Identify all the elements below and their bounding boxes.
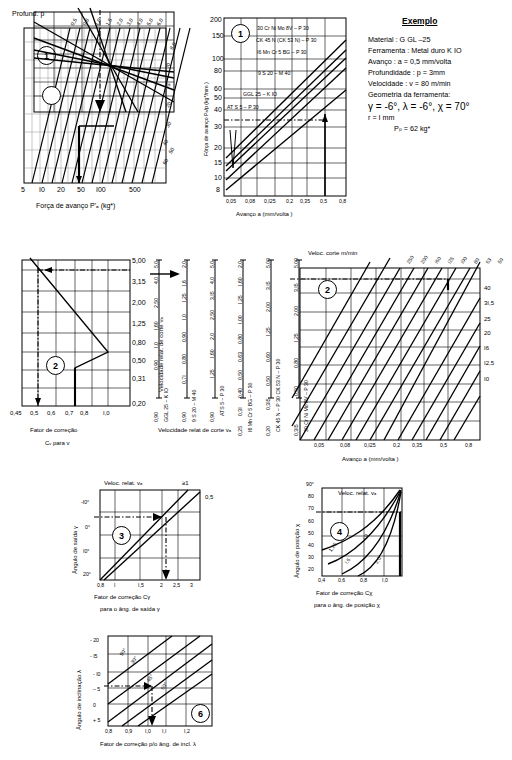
scale-material: GGL 25 – K IO	[164, 388, 169, 422]
scale-tick: 0,90	[154, 360, 159, 370]
chart-4-ylabel: Ângulo de posição χ	[294, 524, 300, 578]
scale-marker-arrow	[150, 268, 190, 282]
x-tick: 0,8	[360, 578, 367, 583]
right-label: 40	[484, 285, 491, 291]
scale-tick: 5,00	[266, 258, 271, 268]
example-result: Pₚ = 62 kg*	[394, 123, 469, 134]
x-tick: 2,5	[173, 583, 180, 588]
y-tick: 20	[214, 144, 222, 151]
chart-4-xlabel2: para o âng. de posição χ	[314, 602, 380, 608]
y-tick: 20	[308, 567, 314, 572]
y-tick: - 20	[90, 638, 99, 643]
chart-3-curve-label: 0,5	[205, 494, 213, 500]
y-tick: 50	[214, 94, 222, 101]
chart-3-ylabel: Ângulo de saída γ	[72, 526, 78, 574]
chart-5: Ângulo de inclinação λ - 20 - I5 - I0 – …	[76, 630, 266, 756]
y-tick: 40	[308, 543, 314, 548]
scale-tick: 0,25	[238, 426, 243, 436]
chart-2-scales-xlabel: Velocidade relat de corte vₐ	[158, 427, 231, 433]
x-tick: 0,35	[300, 199, 310, 204]
x-tick: 0,2	[286, 199, 293, 204]
x-tick: I0	[39, 186, 45, 193]
y-tick: 8	[216, 186, 220, 193]
scale-tick: I,0	[154, 342, 159, 348]
x-tick: 0,8	[465, 443, 472, 448]
x-tick: 0,I25	[264, 199, 276, 204]
x-tick: I,I	[162, 729, 166, 734]
chart-3-badge: 3	[112, 526, 131, 545]
y-tick: - I0	[93, 672, 101, 677]
x-tick: 50	[77, 186, 85, 193]
scale-tick: I,25	[238, 295, 243, 304]
right-label: 3I,5	[484, 300, 494, 306]
x-tick: 0,08	[340, 443, 350, 448]
scale-tick: I,60	[210, 349, 215, 358]
scale-tick: 0,90	[182, 332, 187, 342]
scale-material: I6 Mn Cr 5 BG – P 30	[248, 383, 253, 433]
chart-3-title: Veloc. relat. vₐ	[104, 480, 142, 486]
scale-tick: 2,50	[154, 298, 159, 308]
x-tick: 0,5	[30, 410, 38, 416]
scale-tick: I,60	[154, 321, 159, 330]
chart-1-right-badge: 1	[231, 24, 250, 43]
y-tick: 90°	[306, 482, 314, 487]
chart-2-left-badge: 2	[46, 356, 65, 375]
scale-tick: 5,0	[154, 261, 159, 268]
scale-tick: 2,0	[238, 261, 243, 268]
x-tick: 500	[129, 186, 141, 193]
right-label: 25	[484, 316, 491, 322]
x-tick: 0,5	[320, 199, 327, 204]
right-label: I0	[484, 376, 489, 382]
chart-1-left-xlabel: Força de avanço P'ₐ (kg*)	[36, 202, 115, 209]
scale-tick: 2,00	[266, 302, 271, 312]
scale-tick: 0,90	[182, 412, 187, 422]
y-tick: 60	[308, 519, 314, 524]
example-line: Velocidade : v = 80 m/min	[368, 78, 469, 89]
chart-2-left-xlabel2: Cᵥ para v	[45, 440, 70, 446]
y-tick: 15	[214, 159, 222, 166]
y-tick: 20°	[83, 572, 91, 577]
chart-3-xlabel: Fator de correção Cγ	[94, 594, 150, 600]
scale-tick: 0,20	[266, 426, 271, 436]
series-label: 9 S 20 – M 40	[258, 71, 290, 76]
chart-2-right: Veloc. corte m/min 250 200 I60 I25 I00 8…	[290, 248, 510, 453]
right-label: 20	[484, 330, 491, 336]
scale-tick: 0,3I	[238, 407, 243, 416]
example-line: Ferramenta : Metal duro K IO	[368, 45, 469, 56]
chart-1-right-xlabel: Avanço a (mm/volta )	[236, 211, 293, 217]
scale-tick: 0,90	[210, 412, 215, 422]
scale-tick: 0,50	[266, 376, 271, 386]
example-geometry: γ = -6°, λ = -6°, χ = 70°	[368, 101, 469, 112]
scale-tick: 0,50	[238, 370, 243, 380]
scale-tick: I,25	[266, 327, 271, 336]
example-panel: Exemplo Material : G GL –25 Ferramenta :…	[366, 16, 510, 166]
y-tick: – 5	[93, 687, 100, 692]
x-tick: I,0	[145, 729, 151, 734]
y-tick: 60	[214, 85, 222, 92]
x-tick: 0,8	[80, 410, 88, 416]
right-label: I2,5	[484, 360, 494, 366]
scale-tick: 3,I5	[266, 281, 271, 290]
top-label: I25	[447, 256, 455, 265]
example-line: Profundidade : p = 3mm	[368, 67, 469, 78]
scale-material: CK 45 N – P 30 CK 53 N – P 30	[276, 359, 281, 432]
scale-tick: 0,90	[154, 412, 159, 422]
chart-4: Veloc. relat. vₐ Ângulo de posição χ 90°…	[290, 478, 480, 610]
example-radius: r = I mm	[368, 112, 469, 123]
series-label: 30 Cr Ni Mo 8V – P 30	[257, 26, 309, 31]
x-tick: 0,7	[65, 410, 73, 416]
x-tick: 0,4	[318, 578, 325, 583]
x-tick: I00	[96, 186, 106, 193]
y-tick: 70	[308, 506, 314, 511]
y-tick: 30	[308, 555, 314, 560]
top-label: 50	[497, 257, 505, 265]
y-tick: 0	[93, 703, 96, 708]
chart-3-curve-label: ≥1	[182, 480, 189, 486]
top-label: I00	[460, 256, 468, 265]
series-label: GGL 25 – K IO	[243, 92, 277, 97]
y-tick: -I0°	[81, 500, 89, 505]
x-tick: 0,8	[97, 583, 104, 588]
scale-tick: 0,40	[238, 388, 243, 398]
y-tick: 40	[214, 106, 222, 113]
chart-5-badge: 6	[191, 704, 210, 723]
